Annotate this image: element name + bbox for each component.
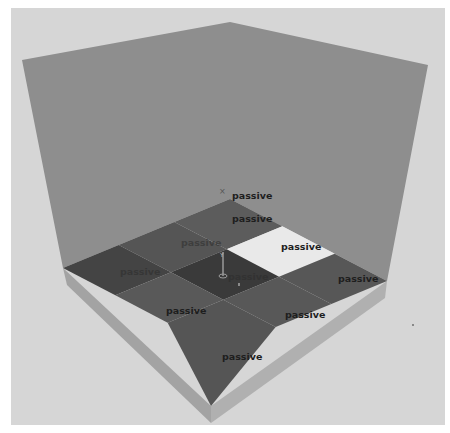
label-cell-0-2: passive [338,273,378,284]
game-viewport[interactable]: × Y passive passive passive passive pass… [0,0,450,433]
label-cell-0-1: passive [281,241,321,252]
axis-y-label: Y [219,251,224,258]
origin-marker-icon: × [219,187,226,196]
label-cell-1-0: passive [181,237,221,248]
label-back-marker: passive [232,190,272,201]
label-cell-2-1: passive [166,305,206,316]
label-cell-0-0: passive [232,213,272,224]
label-cell-1-1: passive [228,271,268,282]
background-speck [412,324,414,326]
label-cell-1-2: passive [285,309,325,320]
label-cell-2-0: passive [120,266,160,277]
label-cell-2-2: passive [222,351,262,362]
